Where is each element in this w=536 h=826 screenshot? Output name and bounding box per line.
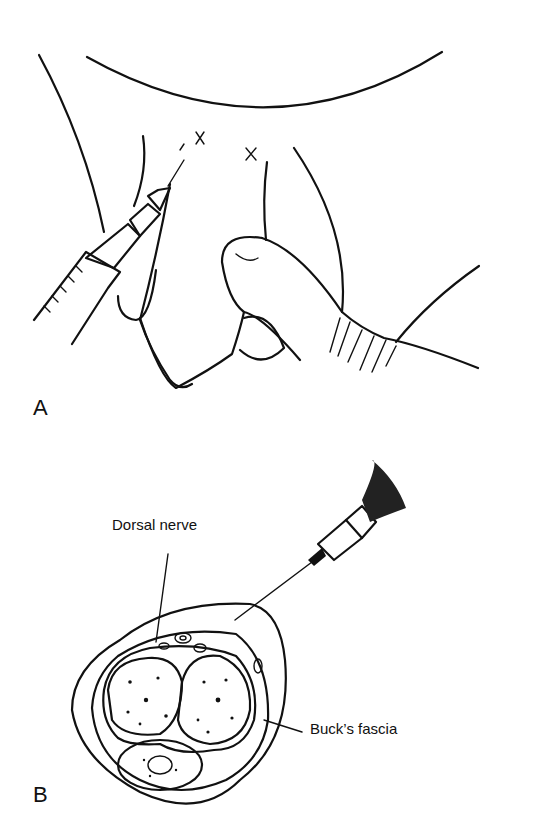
bucks-fascia-label: Buck’s fascia bbox=[310, 720, 397, 737]
illustration-b bbox=[0, 420, 536, 826]
corpus-cavernosum-left bbox=[108, 658, 182, 735]
needle-b bbox=[235, 562, 312, 620]
right-thigh-outline bbox=[294, 148, 343, 312]
panel-label-b: B bbox=[33, 782, 48, 808]
far-right-line bbox=[396, 266, 479, 342]
injection-marker-1 bbox=[196, 132, 204, 144]
needle-a bbox=[168, 160, 184, 186]
corpus-spongiosum bbox=[118, 740, 202, 790]
dorsal-nerve-leader bbox=[156, 554, 168, 642]
panel-a: A bbox=[0, 0, 536, 420]
syringe-gradations bbox=[44, 266, 82, 312]
inner-left-line bbox=[134, 136, 144, 206]
dorsal-nerve-label: Dorsal nerve bbox=[112, 516, 197, 533]
glans-outline bbox=[140, 312, 244, 388]
panel-b: Dorsal nerve Buck’s fascia B bbox=[0, 420, 536, 826]
panel-label-a: A bbox=[33, 395, 48, 421]
shaft-right-edge bbox=[264, 162, 267, 240]
thumb-lower bbox=[222, 237, 300, 360]
thumb-upper bbox=[262, 238, 478, 368]
urethra bbox=[148, 756, 172, 774]
illustration-a bbox=[0, 0, 536, 420]
shaft-left-edge bbox=[140, 184, 192, 387]
syringe-b bbox=[235, 460, 406, 620]
syringe-a bbox=[34, 144, 184, 344]
bucks-fascia-leader bbox=[264, 720, 302, 732]
thumbnail bbox=[236, 254, 258, 260]
knuckle-creases bbox=[330, 318, 396, 372]
syringe-b-plunger bbox=[362, 460, 406, 522]
syringe-barrel bbox=[86, 224, 140, 268]
left-thigh-outline bbox=[39, 55, 104, 232]
abdomen-outline bbox=[87, 52, 442, 107]
injection-marker-2 bbox=[246, 148, 256, 160]
corpus-cavernosum-right bbox=[178, 656, 250, 744]
